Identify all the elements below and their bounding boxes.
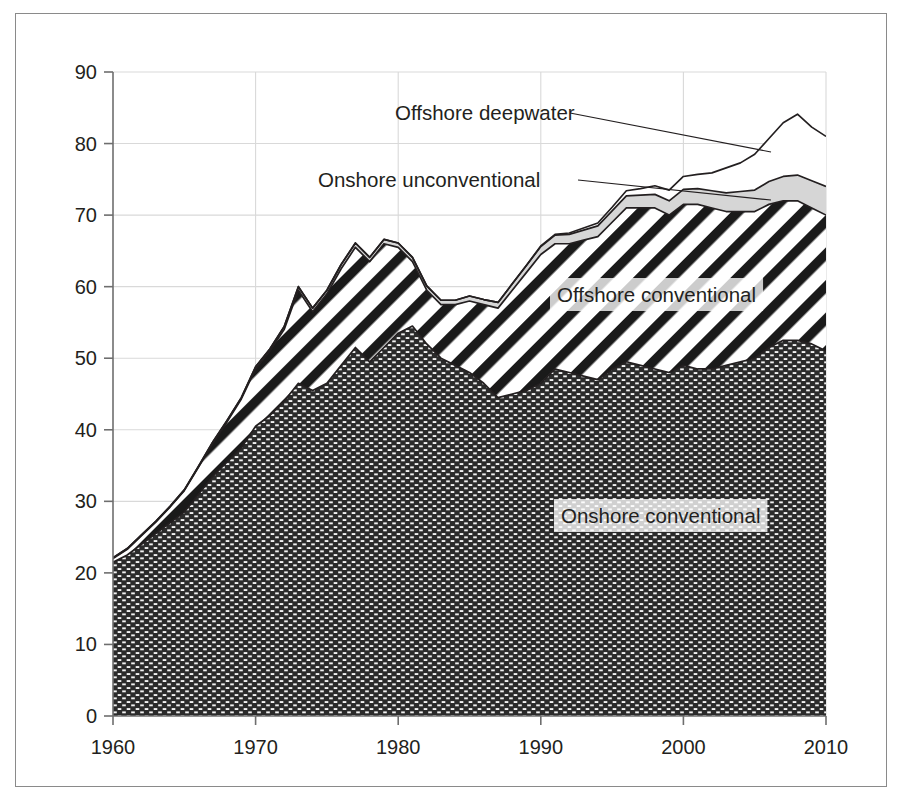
y-tick-label-10: 10 bbox=[75, 633, 97, 655]
leader-line-offshore-deepwater bbox=[570, 113, 771, 152]
y-tick-label-20: 20 bbox=[75, 562, 97, 584]
y-tick-label-70: 70 bbox=[75, 204, 97, 226]
series-label-offshore-deepwater: Offshore deepwater bbox=[395, 101, 575, 124]
y-tick-label-90: 90 bbox=[75, 61, 97, 83]
series-label-onshore-unconventional: Onshore unconventional bbox=[318, 168, 540, 191]
y-tick-label-30: 30 bbox=[75, 490, 97, 512]
x-tick-label-1990: 1990 bbox=[519, 736, 564, 758]
y-tick-label-50: 50 bbox=[75, 347, 97, 369]
series-label-onshore-conventional: Onshore conventional bbox=[561, 504, 760, 527]
y-tick-label-80: 80 bbox=[75, 133, 97, 155]
chart-svg: 0102030405060708090 19601970198019902000… bbox=[0, 0, 902, 805]
y-axis-tick-labels: 0102030405060708090 bbox=[75, 61, 97, 727]
x-axis-tick-labels: 196019701980199020002010 bbox=[91, 736, 849, 758]
series-label-offshore-conventional: Offshore conventional bbox=[557, 283, 756, 306]
x-tick-label-1970: 1970 bbox=[233, 736, 278, 758]
x-tick-label-1980: 1980 bbox=[376, 736, 421, 758]
area-chart: 0102030405060708090 19601970198019902000… bbox=[0, 0, 902, 805]
plot-areas bbox=[113, 114, 826, 716]
x-tick-label-2000: 2000 bbox=[661, 736, 706, 758]
x-tick-label-2010: 2010 bbox=[804, 736, 849, 758]
x-tick-label-1960: 1960 bbox=[91, 736, 136, 758]
y-tick-label-0: 0 bbox=[86, 705, 97, 727]
y-tick-label-40: 40 bbox=[75, 419, 97, 441]
y-tick-label-60: 60 bbox=[75, 276, 97, 298]
